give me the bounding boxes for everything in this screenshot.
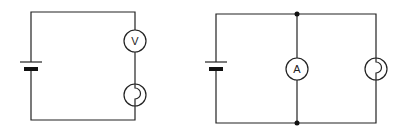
circuit-diagrams: V A — [0, 0, 404, 128]
junction-dot-icon — [295, 121, 300, 126]
circuit-2: A — [205, 12, 387, 126]
lamp-icon — [124, 84, 146, 106]
cell-icon — [20, 62, 42, 69]
lamp-icon — [365, 58, 387, 80]
voltmeter-label: V — [131, 35, 139, 47]
wire-bottom — [216, 69, 376, 123]
wire-top — [216, 14, 376, 62]
cell-icon — [205, 62, 227, 69]
ammeter: A — [286, 58, 308, 80]
circuit-1: V — [20, 12, 146, 120]
wire-top — [31, 12, 135, 62]
wire-bottom — [31, 69, 135, 120]
voltmeter: V — [124, 30, 146, 52]
ammeter-label: A — [293, 63, 301, 75]
junction-dot-icon — [295, 12, 300, 17]
